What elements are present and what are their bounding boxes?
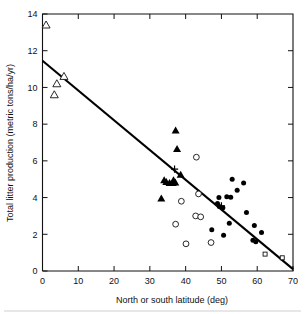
x-tick-label: 50 bbox=[216, 276, 226, 286]
data-point-square-open bbox=[280, 256, 284, 260]
y-tick-label: 4 bbox=[32, 193, 37, 203]
y-tick-label: 10 bbox=[27, 83, 37, 93]
data-point-triangle-open bbox=[50, 91, 58, 98]
data-point-triangle-open bbox=[53, 80, 61, 87]
data-point-circle-open bbox=[178, 198, 184, 204]
data-point-circle-filled bbox=[216, 195, 221, 200]
data-point-circle-filled bbox=[235, 188, 240, 193]
data-point-circle-filled bbox=[244, 210, 249, 215]
regression-line bbox=[43, 61, 294, 269]
x-tick-label: 0 bbox=[40, 276, 45, 286]
x-tick-label: 20 bbox=[109, 276, 119, 286]
data-point-circle-open bbox=[183, 241, 189, 247]
x-tick-label: 60 bbox=[252, 276, 262, 286]
y-axis-tick-labels: 02468101214 bbox=[27, 9, 37, 276]
x-tick-label: 10 bbox=[73, 276, 83, 286]
y-tick-label: 2 bbox=[32, 230, 37, 240]
data-point-circle-open bbox=[196, 191, 202, 197]
data-point-circle-filled bbox=[253, 239, 258, 244]
data-point-circle-open bbox=[198, 214, 204, 220]
data-point-circle-filled bbox=[227, 221, 232, 226]
x-axis-ticks bbox=[43, 14, 294, 271]
x-tick-label: 30 bbox=[145, 276, 155, 286]
y-axis-title: Total litter production (metric tons/ha/… bbox=[5, 64, 15, 222]
data-point-circle-filled bbox=[241, 180, 246, 185]
data-point-circle-filled bbox=[259, 230, 264, 235]
data-point-circle-filled bbox=[230, 177, 235, 182]
y-tick-label: 12 bbox=[27, 46, 37, 56]
data-point-square-open bbox=[263, 252, 267, 256]
data-point-circle-filled bbox=[228, 195, 233, 200]
data-point-triangle-open bbox=[42, 21, 50, 28]
data-point-circle-filled bbox=[221, 233, 226, 238]
data-point-circle-filled bbox=[209, 227, 214, 232]
data-markers bbox=[42, 21, 284, 260]
y-tick-label: 14 bbox=[27, 9, 37, 19]
x-axis-tick-labels: 010203040506070 bbox=[40, 276, 298, 286]
data-point-triangle-filled bbox=[173, 145, 181, 152]
data-point-triangle-filled bbox=[172, 127, 180, 134]
y-tick-label: 8 bbox=[32, 119, 37, 129]
x-axis-title: North or south latitude (deg) bbox=[116, 295, 228, 305]
y-axis-ticks bbox=[43, 14, 294, 271]
scatter-plot: 010203040506070 02468101214 North or sou… bbox=[0, 0, 305, 314]
plot-frame bbox=[43, 14, 294, 271]
data-point-circle-open bbox=[173, 221, 179, 227]
data-point-circle-open bbox=[208, 240, 214, 246]
figure-container: 010203040506070 02468101214 North or sou… bbox=[0, 0, 305, 314]
x-tick-label: 40 bbox=[181, 276, 191, 286]
data-point-triangle-filled bbox=[157, 194, 165, 201]
x-tick-label: 70 bbox=[288, 276, 298, 286]
data-point-circle-open bbox=[193, 154, 199, 160]
data-point-triangle-filled bbox=[169, 176, 177, 183]
y-tick-label: 6 bbox=[32, 156, 37, 166]
data-point-circle-filled bbox=[252, 223, 257, 228]
y-tick-label: 0 bbox=[32, 266, 37, 276]
